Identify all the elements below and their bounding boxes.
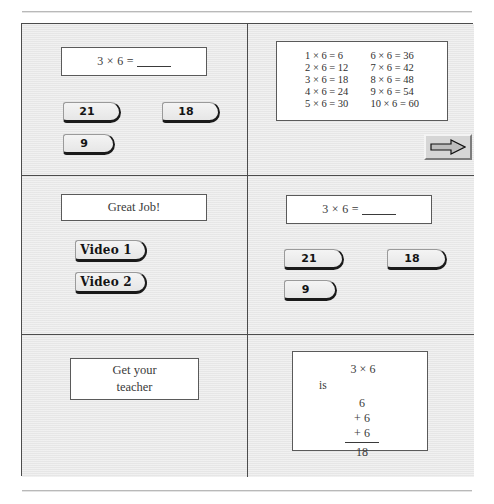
answer-blank (362, 205, 396, 215)
times-fact-9x6: 9 × 6 = 54 (370, 85, 419, 97)
work-sum-rule (345, 442, 379, 443)
video-2-button[interactable]: Video 2 (75, 272, 147, 294)
times-fact-10x6: 10 × 6 = 60 (370, 97, 419, 109)
get-teacher-line-1: Get your (112, 362, 156, 379)
table-row: 1 × 6 = 6 6 × 6 = 36 (305, 49, 419, 61)
bottom-divider-rule (22, 490, 472, 491)
times-table: 1 × 6 = 6 6 × 6 = 36 2 × 6 = 12 7 × 6 = … (305, 49, 419, 109)
flowchart-grid: 3 × 6 = 21 18 9 1 × 6 = 6 6 × 6 = 36 2 ×… (21, 23, 473, 476)
get-teacher-message: Get your teacher (70, 358, 199, 400)
table-row: 4 × 6 = 24 9 × 6 = 54 (305, 85, 419, 97)
answer-button-18-top-left[interactable]: 18 (162, 102, 220, 123)
times-fact-6x6: 6 × 6 = 36 (370, 49, 419, 61)
answer-blank (137, 57, 171, 67)
work-addend-3: + 6 (297, 426, 427, 441)
times-fact-1x6: 1 × 6 = 6 (305, 49, 370, 61)
video-1-button[interactable]: Video 1 (75, 240, 147, 262)
answer-button-9-top-left[interactable]: 9 (63, 134, 115, 155)
cell-top-left: 3 × 6 = 21 18 9 (22, 24, 248, 176)
question-expression: 3 × 6 = (97, 54, 134, 69)
cell-bottom-left: Get your teacher (22, 335, 248, 477)
cell-middle-left: Great Job! Video 1 Video 2 (22, 176, 248, 335)
question-prompt-top-left: 3 × 6 = (61, 47, 207, 76)
table-row: 3 × 6 = 18 8 × 6 = 48 (305, 73, 419, 85)
times-fact-4x6: 4 × 6 = 24 (305, 85, 370, 97)
answer-button-21-middle-right[interactable]: 21 (284, 249, 344, 270)
times-fact-8x6: 8 × 6 = 48 (370, 73, 419, 85)
table-row: 2 × 6 = 12 7 × 6 = 42 (305, 61, 419, 73)
cell-middle-right: 3 × 6 = 21 18 9 (248, 176, 474, 335)
answer-button-18-middle-right[interactable]: 18 (387, 249, 447, 270)
times-fact-2x6: 2 × 6 = 12 (305, 61, 370, 73)
top-divider-rule (22, 11, 472, 12)
work-addend-2: + 6 (297, 411, 427, 426)
times-fact-5x6: 5 × 6 = 30 (305, 97, 370, 109)
work-sum: 18 (297, 445, 427, 460)
cell-top-right: 1 × 6 = 6 6 × 6 = 36 2 × 6 = 12 7 × 6 = … (248, 24, 474, 176)
next-button[interactable] (424, 134, 472, 160)
question-prompt-middle-right: 3 × 6 = (286, 195, 432, 224)
work-addend-1: 6 (297, 396, 427, 411)
arrow-right-icon (430, 139, 466, 155)
repeated-addition-box: 3 × 6 is 6 + 6 + 6 18 (292, 351, 428, 451)
work-expression: 3 × 6 (293, 362, 427, 377)
times-fact-7x6: 7 × 6 = 42 (370, 61, 419, 73)
answer-button-21-top-left[interactable]: 21 (63, 102, 121, 123)
work-addition-stack: 6 + 6 + 6 18 (293, 396, 427, 460)
work-is-label: is (319, 379, 327, 391)
cell-bottom-right: 3 × 6 is 6 + 6 + 6 18 (248, 335, 474, 477)
answer-button-9-middle-right[interactable]: 9 (284, 280, 337, 301)
table-row: 5 × 6 = 30 10 × 6 = 60 (305, 97, 419, 109)
times-fact-3x6: 3 × 6 = 18 (305, 73, 370, 85)
praise-message: Great Job! (61, 194, 207, 221)
get-teacher-line-2: teacher (116, 379, 152, 396)
question-expression: 3 × 6 = (322, 202, 359, 217)
times-table-box: 1 × 6 = 6 6 × 6 = 36 2 × 6 = 12 7 × 6 = … (276, 41, 448, 121)
